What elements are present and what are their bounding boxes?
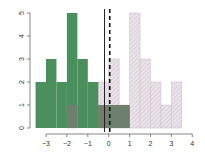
x-tick-label: −1: [84, 140, 92, 147]
x-tick-label: 1: [128, 140, 132, 147]
x-tick-label: 2: [149, 140, 153, 147]
solid-bar: [46, 59, 56, 128]
y-tick-label: 1: [18, 103, 25, 107]
y-tick-label: 5: [18, 11, 25, 15]
y-tick-label: 3: [18, 57, 25, 61]
hatched-bar: [171, 82, 181, 128]
x-tick-label: 3: [169, 140, 173, 147]
hatched-bar: [130, 13, 140, 128]
hatched-bar: [161, 105, 171, 128]
hatched-bar: [151, 82, 161, 128]
hatched-bar: [140, 59, 150, 128]
x-tick-label: −3: [42, 140, 50, 147]
y-tick-label: 0: [18, 126, 25, 130]
y-tick-label: 4: [18, 34, 25, 38]
overlap-bar: [98, 105, 108, 128]
overlap-region: [67, 105, 130, 128]
histogram-chart: 012345−3−2−101234: [0, 0, 205, 155]
solid-bar: [88, 82, 98, 128]
y-tick-label: 2: [18, 80, 25, 84]
solid-bar: [36, 82, 46, 128]
x-tick-label: −2: [63, 140, 71, 147]
solid-bar: [77, 59, 87, 128]
x-tick-label: 0: [107, 140, 111, 147]
overlap-bar: [119, 105, 129, 128]
overlap-bar: [67, 105, 77, 128]
x-tick-label: 4: [190, 140, 194, 147]
solid-bar: [56, 82, 66, 128]
